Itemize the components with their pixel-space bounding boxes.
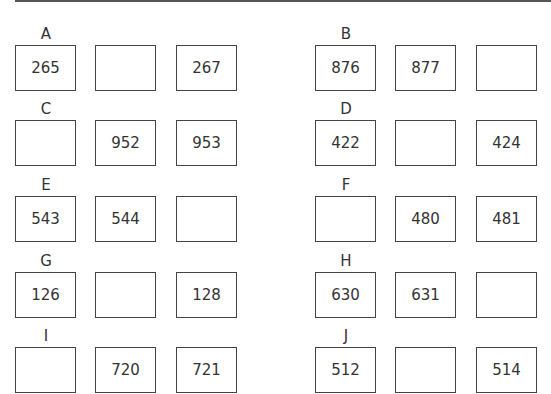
answer-box-empty[interactable]: [176, 196, 237, 242]
number-box: 720: [95, 347, 156, 393]
number-box: 544: [95, 196, 156, 242]
number-box: 876: [315, 45, 376, 91]
answer-box-empty[interactable]: [476, 45, 537, 91]
number-box: 877: [395, 45, 456, 91]
problem-label: A: [15, 26, 77, 42]
answer-box-empty[interactable]: [15, 120, 76, 166]
number-box: 422: [315, 120, 376, 166]
problem-label: D: [315, 101, 377, 117]
problem-label: J: [315, 328, 377, 344]
number-box: 267: [176, 45, 237, 91]
number-box: 481: [476, 196, 537, 242]
number-box: 512: [315, 347, 376, 393]
answer-box-empty[interactable]: [15, 347, 76, 393]
number-box: 424: [476, 120, 537, 166]
number-box: 128: [176, 272, 237, 318]
top-divider-line: [15, 0, 551, 2]
answer-box-empty[interactable]: [476, 272, 537, 318]
answer-box-empty[interactable]: [95, 272, 156, 318]
problem-label: B: [315, 26, 377, 42]
problem-label: H: [315, 253, 377, 269]
answer-box-empty[interactable]: [395, 347, 456, 393]
number-box: 953: [176, 120, 237, 166]
number-box: 480: [395, 196, 456, 242]
answer-box-empty[interactable]: [95, 45, 156, 91]
number-box: 543: [15, 196, 76, 242]
number-box: 631: [395, 272, 456, 318]
problem-label: E: [15, 177, 77, 193]
number-box: 721: [176, 347, 237, 393]
number-box: 514: [476, 347, 537, 393]
problem-label: C: [15, 101, 77, 117]
number-box: 265: [15, 45, 76, 91]
problem-label: G: [15, 253, 77, 269]
number-box: 126: [15, 272, 76, 318]
number-box: 952: [95, 120, 156, 166]
answer-box-empty[interactable]: [315, 196, 376, 242]
problem-label: F: [315, 177, 377, 193]
answer-box-empty[interactable]: [395, 120, 456, 166]
problem-label: I: [15, 328, 77, 344]
number-box: 630: [315, 272, 376, 318]
